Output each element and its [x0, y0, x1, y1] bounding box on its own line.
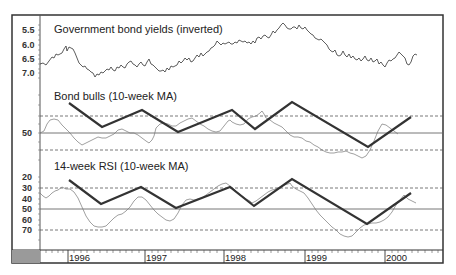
axis-corner-box [12, 250, 40, 263]
bond-bulls-tick-50: 50 [22, 128, 32, 138]
svg-text:2000: 2000 [386, 252, 407, 263]
svg-text:1996: 1996 [69, 252, 90, 263]
rsi-ticks: 20 30 40 50 60 70 [22, 172, 32, 235]
svg-text:6.5: 6.5 [22, 54, 35, 64]
svg-text:5.5: 5.5 [22, 25, 35, 35]
svg-text:20: 20 [22, 172, 32, 182]
panel-title-bond-bulls: Bond bulls (10-week MA) [54, 90, 177, 102]
svg-text:60: 60 [22, 215, 32, 225]
svg-text:40: 40 [22, 194, 32, 204]
svg-text:30: 30 [22, 183, 32, 193]
svg-text:6.0: 6.0 [22, 40, 35, 50]
svg-text:1997: 1997 [146, 252, 167, 263]
svg-text:1998: 1998 [225, 252, 246, 263]
panel-title-bond-yields: Government bond yields (inverted) [54, 23, 223, 35]
chart-canvas: Government bond yields (inverted) 5.5 6.… [0, 0, 456, 275]
svg-text:70: 70 [22, 225, 32, 235]
svg-text:50: 50 [22, 204, 32, 214]
panel-title-rsi: 14-week RSI (10-week MA) [54, 160, 189, 172]
svg-text:1999: 1999 [306, 252, 327, 263]
svg-text:7.0: 7.0 [22, 68, 35, 78]
